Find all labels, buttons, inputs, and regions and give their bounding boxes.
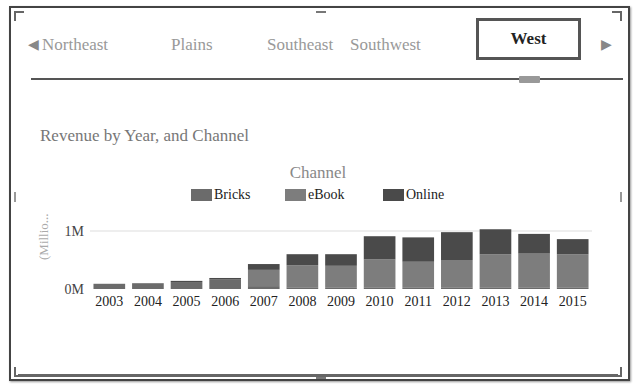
x-tick-label: 2015	[559, 294, 587, 309]
bar-segment-online-2010[interactable]	[364, 236, 396, 259]
bar-segment-online-2008[interactable]	[287, 254, 319, 265]
y-tick-label: 1M	[65, 224, 85, 239]
bar-segment-ebook-2014[interactable]	[518, 254, 550, 288]
bar-segment-ebook-2011[interactable]	[402, 262, 434, 288]
bar-segment-bricks-2010[interactable]	[364, 288, 396, 289]
bar-segment-bricks-2013[interactable]	[480, 288, 512, 289]
x-tick-label: 2012	[443, 294, 471, 309]
bar-segment-online-2015[interactable]	[557, 239, 589, 254]
bar-segment-ebook-2007[interactable]	[248, 270, 280, 286]
bar-segment-ebook-2008[interactable]	[287, 265, 319, 287]
bar-segment-ebook-2013[interactable]	[480, 254, 512, 288]
bar-segment-bricks-2006[interactable]	[209, 279, 241, 289]
bar-segment-bricks-2008[interactable]	[287, 287, 319, 289]
bar-segment-bricks-2005[interactable]	[171, 282, 203, 289]
x-tick-label: 2008	[288, 294, 316, 309]
x-tick-label: 2007	[250, 294, 278, 309]
bar-segment-bricks-2004[interactable]	[132, 283, 164, 289]
bar-segment-online-2005[interactable]	[171, 281, 203, 282]
x-tick-label: 2011	[404, 294, 431, 309]
bar-segment-online-2007[interactable]	[248, 264, 280, 270]
bar-segment-bricks-2012[interactable]	[441, 288, 473, 289]
bar-segment-ebook-2012[interactable]	[441, 260, 473, 288]
bar-segment-bricks-2003[interactable]	[93, 284, 125, 289]
bar-segment-online-2012[interactable]	[441, 232, 473, 260]
bar-segment-online-2006[interactable]	[209, 278, 241, 279]
x-tick-label: 2010	[366, 294, 394, 309]
x-tick-label: 2003	[95, 294, 123, 309]
bar-segment-bricks-2011[interactable]	[402, 288, 434, 289]
bar-segment-ebook-2015[interactable]	[557, 254, 589, 288]
bar-segment-online-2011[interactable]	[402, 237, 434, 261]
bar-segment-bricks-2014[interactable]	[518, 288, 550, 289]
bar-segment-online-2014[interactable]	[518, 234, 550, 254]
bar-segment-bricks-2007[interactable]	[248, 286, 280, 289]
x-tick-label: 2013	[481, 294, 509, 309]
bar-segment-bricks-2015[interactable]	[557, 288, 589, 289]
x-tick-label: 2014	[520, 294, 548, 309]
x-tick-label: 2005	[173, 294, 201, 309]
bar-segment-ebook-2009[interactable]	[325, 266, 357, 288]
bar-segment-online-2009[interactable]	[325, 254, 357, 266]
bar-chart: 0M1M200320042005200620072008200920102011…	[0, 0, 636, 389]
x-tick-label: 2009	[327, 294, 355, 309]
bar-segment-online-2013[interactable]	[480, 229, 512, 254]
x-tick-label: 2006	[211, 294, 239, 309]
y-tick-label: 0M	[65, 282, 85, 297]
x-tick-label: 2004	[134, 294, 162, 309]
bar-segment-bricks-2009[interactable]	[325, 288, 357, 289]
bar-segment-ebook-2010[interactable]	[364, 259, 396, 287]
